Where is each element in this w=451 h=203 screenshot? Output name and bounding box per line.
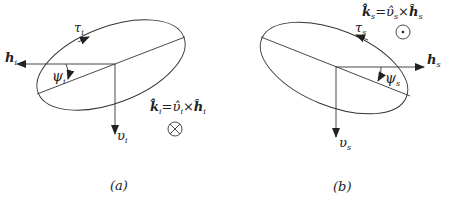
- polarization-ellipse-diagram: τi hi ψi υi k̂i=υ̂i×ĥi (a) τs hs ψs υs k…: [0, 0, 451, 203]
- polarization-ellipse-b: [247, 4, 420, 133]
- psi-angle-arc-b: [378, 67, 381, 81]
- caption-a: (a): [110, 178, 128, 193]
- caption-b: (b): [333, 179, 351, 194]
- k-formula-a: k̂i=υ̂i×ĥi: [150, 98, 206, 116]
- psi-label-b: ψs: [385, 70, 400, 88]
- panel-a: τi hi ψi υi k̂i=υ̂i×ĥi (a): [5, 2, 206, 193]
- out-of-page-dot-icon: [396, 25, 410, 39]
- tau-label-a: τi: [74, 20, 84, 37]
- major-axis-b: [261, 37, 410, 96]
- h-label-a: hi: [5, 50, 17, 67]
- v-label-a: υi: [117, 128, 128, 145]
- psi-label-a: ψi: [52, 68, 66, 86]
- v-label-b: υs: [339, 135, 351, 152]
- k-formula-b: k̂s=υ̂s×ĥs: [362, 3, 423, 21]
- panel-b: τs hs ψs υs k̂s=υ̂s×ĥs (b): [247, 3, 440, 194]
- h-label-b: hs: [427, 52, 441, 69]
- major-axis-a: [37, 37, 185, 94]
- tau-label-b: τs: [355, 20, 366, 37]
- psi-angle-arc-a: [66, 64, 69, 79]
- into-page-cross-icon: [168, 122, 182, 136]
